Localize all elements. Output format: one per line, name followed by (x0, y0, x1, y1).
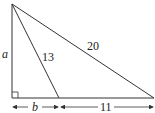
hypotenuse (12, 4, 154, 98)
right-angle-marker (12, 92, 18, 98)
label-20: 20 (87, 39, 99, 53)
triangle-diagram: a 13 20 b 11 (0, 0, 155, 113)
label-11: 11 (100, 100, 112, 113)
label-a: a (2, 47, 8, 61)
label-13: 13 (42, 50, 54, 64)
label-b: b (32, 100, 38, 113)
